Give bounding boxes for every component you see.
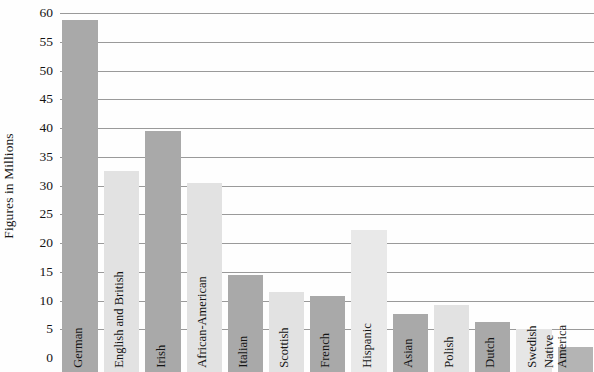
bar-label: NativeAmerica (543, 325, 568, 368)
bar-label: French (319, 333, 332, 368)
bar-english-and-british[interactable]: English and British (104, 171, 139, 372)
y-axis-tick-40: 40 (40, 121, 54, 135)
bar-asian[interactable]: Asian (393, 314, 428, 372)
bar-label: Scottish (278, 328, 291, 368)
y-axis-tick-35: 35 (40, 150, 54, 164)
bar-german[interactable]: German (62, 20, 98, 372)
bar-label: Dutch (484, 337, 497, 368)
bar-label-line: America (555, 325, 568, 368)
bar-african-american[interactable]: African-American (187, 183, 222, 372)
bar-label: English and British (113, 271, 126, 368)
y-axis-tick-60: 60 (40, 6, 54, 20)
bar-rect (145, 131, 181, 372)
bar-label: Italian (237, 336, 250, 368)
bar-label: Swedish (526, 326, 539, 368)
bar-rect (62, 20, 98, 372)
bar-native-america[interactable]: NativeAmerica (558, 347, 593, 372)
y-axis-tick-20: 20 (40, 236, 54, 250)
bar-label: Irish (155, 345, 168, 368)
bar-label: German (72, 328, 85, 368)
bar-label: Asian (402, 339, 415, 368)
y-axis-tick-30: 30 (40, 179, 54, 193)
y-axis-tick-5: 5 (46, 323, 53, 337)
bar-label: African-American (196, 276, 209, 368)
bar-dutch[interactable]: Dutch (475, 322, 510, 372)
y-axis-tick-55: 55 (40, 35, 54, 49)
y-axis-tick-labels: 605550454035302520151050 (18, 0, 60, 372)
y-axis-tick-10: 10 (40, 294, 54, 308)
bars-layer: GermanEnglish and BritishIrishAfrican-Am… (60, 0, 594, 372)
bar-chart: Figures in Millions 60555045403530252015… (0, 0, 594, 372)
bar-scottish[interactable]: Scottish (269, 292, 304, 372)
plot-area: GermanEnglish and BritishIrishAfrican-Am… (60, 0, 594, 372)
y-axis-title: Figures in Millions (0, 0, 18, 372)
bar-label: Polish (443, 337, 456, 368)
y-axis-tick-50: 50 (40, 64, 54, 78)
bar-label-line: Native (543, 325, 556, 368)
y-axis-tick-0: 0 (46, 351, 53, 365)
y-axis-tick-15: 15 (40, 265, 54, 279)
bar-italian[interactable]: Italian (228, 275, 263, 372)
bar-polish[interactable]: Polish (434, 305, 469, 372)
y-axis-tick-45: 45 (40, 93, 54, 107)
bar-label: Hispanic (361, 324, 374, 368)
y-axis-tick-25: 25 (40, 208, 54, 222)
bar-irish[interactable]: Irish (145, 131, 181, 372)
bar-french[interactable]: French (310, 296, 345, 372)
y-axis-title-label: Figures in Millions (1, 133, 17, 238)
bar-hispanic[interactable]: Hispanic (351, 230, 387, 372)
